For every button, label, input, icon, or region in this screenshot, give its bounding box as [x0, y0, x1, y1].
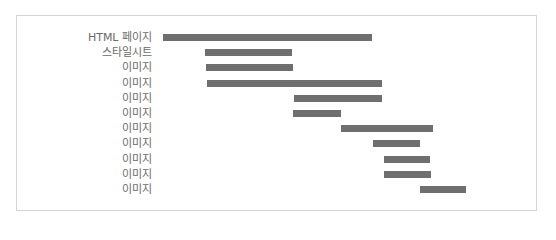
timeline-bar: [207, 80, 382, 87]
row-label: 이미지: [122, 152, 152, 167]
row-label: 스타일시트: [102, 45, 152, 60]
row-label: 이미지: [122, 91, 152, 106]
row-label: HTML 페이지: [88, 30, 152, 45]
chart-row: 이미지: [0, 182, 556, 197]
row-label: 이미지: [122, 167, 152, 182]
timeline-bar: [384, 156, 430, 163]
chart-row: 이미지: [0, 152, 556, 167]
timeline-bar: [384, 171, 431, 178]
chart-row: 이미지: [0, 121, 556, 136]
chart-row: 이미지: [0, 76, 556, 91]
row-label: 이미지: [122, 76, 152, 91]
row-label: 이미지: [122, 136, 152, 151]
chart-row: 이미지: [0, 136, 556, 151]
row-label: 이미지: [122, 60, 152, 75]
row-label: 이미지: [122, 182, 152, 197]
chart-row: 이미지: [0, 91, 556, 106]
row-label: 이미지: [122, 106, 152, 121]
chart-row: HTML 페이지: [0, 30, 556, 45]
chart-row: 이미지: [0, 167, 556, 182]
timeline-bar: [293, 110, 341, 117]
chart-row: 이미지: [0, 60, 556, 75]
timeline-bar: [420, 186, 466, 193]
timeline-bar: [206, 64, 293, 71]
chart-row: 이미지: [0, 106, 556, 121]
timeline-bar: [373, 140, 420, 147]
timeline-bar: [205, 49, 292, 56]
timeline-bar: [341, 125, 433, 132]
timeline-bar: [294, 95, 382, 102]
chart-row: 스타일시트: [0, 45, 556, 60]
row-label: 이미지: [122, 121, 152, 136]
timeline-bar: [163, 34, 372, 41]
